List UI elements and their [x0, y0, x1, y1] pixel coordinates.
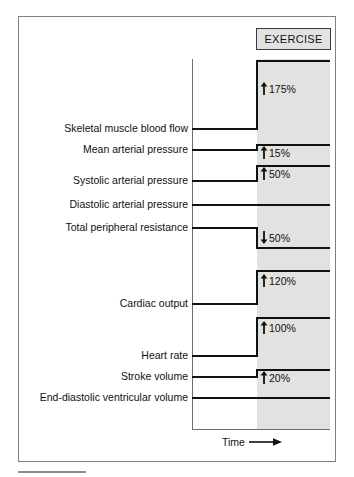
arrow-right-icon	[249, 437, 283, 447]
x-axis-label-group: Time	[222, 436, 283, 448]
trace-label-end-diastolic-ventricular-volume: End-diastolic ventricular volume	[4, 391, 188, 403]
plot-area: EXERCISE Skeletal muscle blood flow 175%…	[0, 0, 354, 477]
physiology-exercise-figure: EXERCISE Skeletal muscle blood flow 175%…	[0, 0, 354, 477]
caption-rule	[18, 471, 86, 473]
trace-end-diastolic-ventricular-volume: End-diastolic ventricular volume	[0, 0, 354, 477]
trace-segment-flat	[192, 397, 330, 399]
x-axis-label-text: Time	[222, 436, 245, 448]
